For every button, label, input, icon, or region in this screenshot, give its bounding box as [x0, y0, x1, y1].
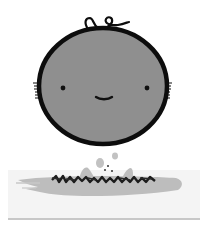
right-eye: [145, 86, 150, 91]
illustration-canvas: illegible scribble: [0, 0, 210, 233]
character-illustration: [0, 0, 210, 233]
left-eye: [61, 86, 66, 91]
